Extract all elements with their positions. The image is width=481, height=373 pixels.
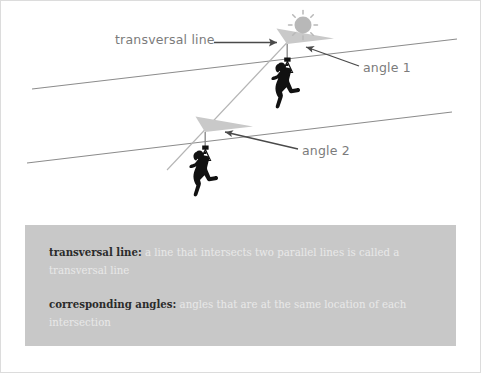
arrow-left-icon xyxy=(225,130,298,149)
zipline-rider-icon xyxy=(271,44,300,108)
angle-2-wedge xyxy=(196,117,254,133)
definitions-panel: transversal line: a line that intersects… xyxy=(25,225,456,346)
angle-1-label: angle 1 xyxy=(363,60,411,75)
definition-term: transversal line: xyxy=(49,246,142,258)
arrow-right-icon xyxy=(214,39,277,47)
definition-term: corresponding angles: xyxy=(49,298,176,310)
definition-transversal-line: transversal line: a line that intersects… xyxy=(49,243,432,280)
parallel-line-lower xyxy=(27,112,452,163)
transversal-line-label: transversal line xyxy=(115,32,215,47)
angle-2-label: angle 2 xyxy=(302,143,350,158)
definition-corresponding-angles: corresponding angles: angles that are at… xyxy=(49,295,432,332)
diagram-page: transversal line angle 1 angle 2 transve… xyxy=(0,0,481,373)
